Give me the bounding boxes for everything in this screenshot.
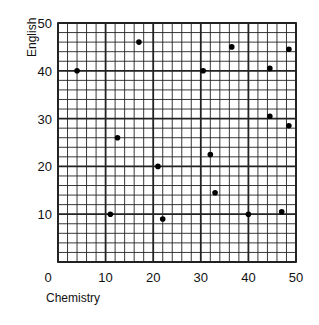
y-tick-label: 30 (38, 112, 52, 127)
x-axis-label: Chemistry (46, 291, 100, 305)
data-point (212, 190, 218, 196)
data-point (267, 113, 273, 119)
y-axis-ticks: 1020304050 (38, 16, 52, 222)
scatter-chart: 1020304050 01020304050 English Chemistry (0, 0, 319, 325)
y-axis-label: English (25, 18, 39, 57)
y-tick-label: 50 (38, 16, 52, 31)
data-point (229, 44, 235, 50)
data-point (286, 123, 292, 129)
x-axis-ticks: 01020304050 (44, 270, 303, 285)
data-point (200, 68, 206, 74)
data-point (160, 216, 166, 222)
x-tick-label: 0 (44, 270, 51, 285)
data-point (74, 68, 80, 74)
y-tick-label: 20 (38, 159, 52, 174)
data-point (155, 164, 161, 170)
x-tick-label: 40 (241, 270, 255, 285)
x-tick-label: 10 (98, 270, 112, 285)
data-points (74, 39, 291, 221)
y-tick-label: 40 (38, 64, 52, 79)
data-point (115, 135, 121, 141)
x-tick-label: 20 (146, 270, 160, 285)
plot-grid (58, 23, 296, 262)
data-point (267, 66, 273, 72)
y-tick-label: 10 (38, 207, 52, 222)
x-tick-label: 50 (289, 270, 303, 285)
data-point (208, 152, 214, 158)
data-point (108, 211, 114, 217)
data-point (136, 39, 142, 45)
x-tick-label: 30 (194, 270, 208, 285)
plot-frame (58, 23, 296, 262)
data-point (246, 211, 252, 217)
data-point (279, 209, 285, 215)
data-point (286, 46, 292, 52)
